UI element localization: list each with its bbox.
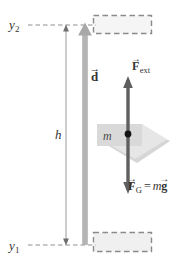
vector-arrow-accent-icon: → bbox=[160, 174, 170, 184]
force-external-subscript: ext bbox=[139, 65, 150, 75]
final-position-box bbox=[94, 16, 152, 34]
label-displacement-vector: →d bbox=[91, 70, 98, 83]
label-mass: m bbox=[103, 130, 112, 142]
force-gravity-symbol: →F bbox=[128, 180, 135, 192]
label-y-bottom: y1 bbox=[9, 239, 20, 255]
vector-arrow-accent-icon: → bbox=[89, 64, 99, 74]
label-height: h bbox=[55, 128, 62, 141]
vector-arrow-accent-icon: → bbox=[131, 54, 141, 64]
label-y-top-symbol: y bbox=[9, 17, 15, 32]
initial-position-box bbox=[94, 233, 152, 252]
center-of-mass-dot bbox=[125, 131, 132, 138]
physics-diagram-work-gravity: y2 y1 h →d m →Fext →FG=m→g bbox=[0, 0, 193, 271]
label-force-gravity-equation: →FG=m→g bbox=[128, 180, 167, 194]
displacement-arrow bbox=[78, 23, 92, 246]
label-y-bottom-subscript: 1 bbox=[15, 245, 20, 255]
label-y-top: y2 bbox=[9, 18, 20, 34]
height-dimension-line bbox=[63, 25, 69, 246]
equals-sign: = bbox=[142, 179, 153, 193]
label-y-bottom-symbol: y bbox=[9, 238, 15, 253]
label-force-external: →Fext bbox=[132, 60, 150, 74]
diagram-graphics-layer bbox=[0, 0, 193, 271]
displacement-vector-symbol: →d bbox=[91, 70, 98, 83]
force-external-symbol: →F bbox=[132, 60, 139, 72]
force-gravity-subscript: G bbox=[135, 185, 142, 195]
vector-arrow-accent-icon: → bbox=[127, 174, 137, 184]
gravity-vector-symbol: →g bbox=[161, 180, 167, 192]
label-y-top-subscript: 2 bbox=[15, 24, 20, 34]
